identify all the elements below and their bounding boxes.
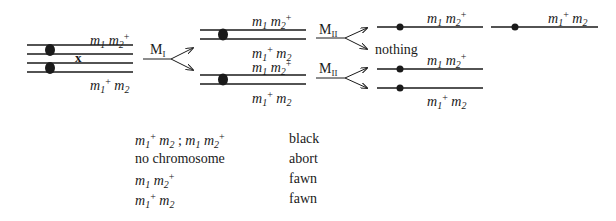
centromere-dot bbox=[45, 44, 55, 56]
product-2-genotype: m1+ m2 bbox=[548, 10, 587, 28]
centromere-dot bbox=[45, 62, 55, 74]
legend-phenotype: fawn bbox=[289, 171, 317, 187]
product-1-genotype: m1 m2+ bbox=[427, 10, 466, 28]
parental-top-genotype: m1 m2+ bbox=[90, 32, 129, 50]
middle-top-chromatids bbox=[200, 30, 306, 39]
legend-phenotype: fawn bbox=[289, 191, 317, 207]
legend-row: m1 m2+ fawn bbox=[135, 171, 355, 191]
legend-genotype: no chromosome bbox=[135, 151, 225, 167]
product-4-genotype: m1+ m2 bbox=[427, 93, 466, 111]
product-chromosomes bbox=[377, 27, 598, 88]
legend-phenotype: abort bbox=[289, 151, 318, 167]
meiosis-II-top-label: MII bbox=[319, 23, 337, 39]
meiosis-I-label: MI bbox=[150, 43, 165, 59]
centromere-dot bbox=[218, 29, 228, 41]
middle-top-upper-genotype: m1 m2+ bbox=[252, 13, 291, 31]
centromere-dot bbox=[512, 24, 519, 31]
legend-genotype: m1+ m2 ; m1 m2+ bbox=[135, 131, 225, 150]
centromere-dot bbox=[218, 74, 228, 86]
middle-bottom-lower-genotype: m1+ m2 bbox=[252, 90, 291, 108]
product-3-genotype: m1 m2+ bbox=[427, 52, 466, 70]
centromere-dot bbox=[397, 66, 404, 73]
crossover-mark: x bbox=[75, 51, 82, 64]
nothing-label: nothing bbox=[375, 43, 418, 57]
centromere-dot bbox=[397, 24, 404, 31]
middle-bottom-upper-genotype: m1 m2+ bbox=[252, 59, 291, 77]
legend-row: no chromosome abort bbox=[135, 151, 355, 171]
legend-genotype: m1+ m2 bbox=[135, 191, 174, 210]
legend-genotype: m1 m2+ bbox=[135, 171, 174, 190]
legend-phenotype: black bbox=[289, 131, 319, 147]
parental-bottom-genotype: m1+ m2 bbox=[90, 77, 129, 95]
legend-row: m1+ m2 ; m1 m2+ black bbox=[135, 131, 355, 151]
legend-row: m1+ m2 fawn bbox=[135, 191, 355, 211]
centromere-dot bbox=[397, 85, 404, 92]
meiosis-II-bottom-label: MII bbox=[319, 62, 337, 78]
